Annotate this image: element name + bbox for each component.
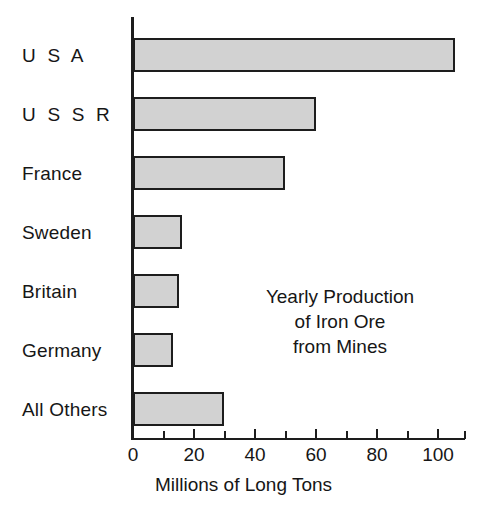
- x-tick-minor-90: [407, 431, 409, 439]
- bar-germany: [133, 333, 173, 367]
- chart-annotation-line-1: Yearly Production: [240, 284, 440, 309]
- x-tick-60: [315, 429, 317, 439]
- bar-chart: U S A U S S R France Sweden Britain Germ…: [0, 0, 487, 513]
- x-tick-0: [132, 429, 134, 439]
- x-tick-label-40: 40: [244, 444, 265, 466]
- category-label-britain: Britain: [22, 281, 140, 303]
- x-tick-label-60: 60: [305, 444, 326, 466]
- x-tick-label-80: 80: [366, 444, 387, 466]
- x-tick-label-20: 20: [183, 444, 204, 466]
- chart-annotation: Yearly Production of Iron Ore from Mines: [240, 284, 440, 359]
- y-axis-line: [131, 17, 134, 440]
- bar-all-others: [133, 392, 224, 426]
- x-tick-minor-110: [464, 431, 466, 439]
- x-tick-minor-70: [346, 431, 348, 439]
- category-label-usa: U S A: [22, 45, 140, 67]
- bar-ussr: [133, 97, 316, 131]
- bar-britain: [133, 274, 179, 308]
- bar-usa: [133, 38, 455, 72]
- x-tick-80: [376, 429, 378, 439]
- x-tick-100: [437, 429, 439, 439]
- category-label-all-others: All Others: [22, 399, 140, 421]
- x-tick-minor-30: [224, 431, 226, 439]
- chart-annotation-line-3: from Mines: [240, 334, 440, 359]
- chart-annotation-line-2: of Iron Ore: [240, 309, 440, 334]
- x-axis-line: [131, 438, 465, 440]
- x-tick-20: [193, 429, 195, 439]
- category-label-ussr: U S S R: [22, 104, 140, 126]
- x-tick-label-100: 100: [422, 444, 454, 466]
- category-label-france: France: [22, 163, 140, 185]
- x-tick-label-0: 0: [128, 444, 139, 466]
- x-tick-minor-50: [285, 431, 287, 439]
- x-tick-40: [254, 429, 256, 439]
- x-axis-title: Millions of Long Tons: [0, 474, 487, 496]
- x-tick-minor-10: [163, 431, 165, 439]
- category-label-germany: Germany: [22, 340, 140, 362]
- bar-sweden: [133, 215, 182, 249]
- category-label-sweden: Sweden: [22, 222, 140, 244]
- bar-france: [133, 156, 285, 190]
